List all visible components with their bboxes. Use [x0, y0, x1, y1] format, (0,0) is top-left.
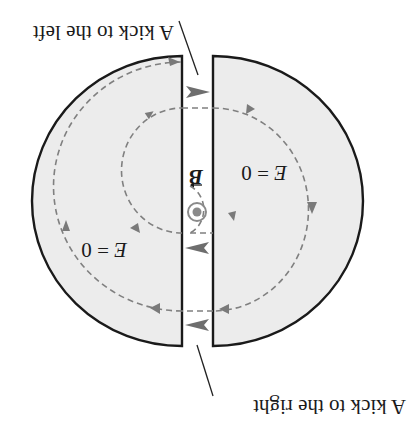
- right-dee: [213, 56, 363, 346]
- field-var: E: [274, 161, 288, 185]
- magnetic-field-label: B: [189, 165, 204, 189]
- field-value: = 0: [81, 238, 114, 262]
- kick-arrow-icon: [185, 319, 209, 331]
- cyclotron-diagram: A kick to the left A kick to the right E…: [0, 0, 413, 437]
- kick-right-leader-line: [197, 345, 213, 396]
- field-value: = 0: [241, 161, 274, 185]
- right-dee-field-label: E = 0: [241, 161, 288, 185]
- field-var: E: [114, 238, 128, 262]
- kick-arrow-icon: [186, 86, 210, 98]
- left-dee-field-label: E = 0: [81, 238, 128, 262]
- kick-right-label: A kick to the right: [253, 395, 406, 419]
- kick-left-label: A kick to the left: [33, 21, 174, 45]
- kick-arrow-icon: [185, 242, 209, 254]
